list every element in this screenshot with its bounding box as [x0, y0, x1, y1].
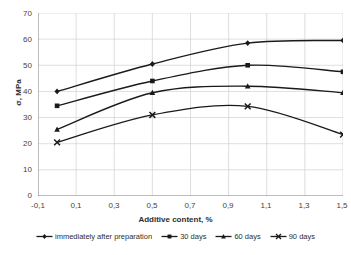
x-tick-label: 0,5 [135, 201, 169, 210]
legend-label: 60 days [234, 232, 260, 241]
x-tick-label: 1,3 [287, 201, 321, 210]
chart-legend: immediately after preparation 30 days 60… [0, 232, 351, 241]
series-4 [54, 103, 343, 145]
plot-area [38, 13, 343, 196]
square-marker-icon [55, 104, 60, 109]
x-cross-marker-icon [270, 232, 287, 241]
chart-container: 70 60 50 40 30 20 10 0 -0,1 0,1 0,3 0,5 … [0, 0, 351, 255]
diamond-marker-icon [42, 234, 46, 239]
x-tick-label: 1,1 [249, 201, 283, 210]
diamond-marker-icon [245, 40, 250, 46]
x-tick-label: 0,1 [59, 201, 93, 210]
diamond-marker-icon [150, 61, 155, 67]
legend-item-30-days[interactable]: 30 days [161, 232, 206, 241]
x-tick-label: 0,3 [97, 201, 131, 210]
legend-item-90-days[interactable]: 90 days [270, 232, 315, 241]
series-2 [55, 63, 343, 108]
legend-label: immediately after preparation [55, 232, 152, 241]
y-tick-label: 70 [4, 9, 32, 18]
y-tick-label: 20 [4, 139, 32, 148]
x-axis-title: Additive content, % [0, 215, 351, 224]
square-marker-icon [341, 70, 343, 75]
plot-svg [38, 13, 343, 196]
legend-item-immediately-after-preparation[interactable]: immediately after preparation [36, 232, 152, 241]
x-tick-label: -0,1 [21, 201, 55, 210]
x-tick-label: 1,5 [325, 201, 351, 210]
diamond-marker-icon [340, 38, 343, 44]
legend-item-60-days[interactable]: 60 days [215, 232, 260, 241]
x-tick-label: 0,9 [211, 201, 245, 210]
square-marker-icon [168, 235, 172, 239]
legend-label: 30 days [180, 232, 206, 241]
y-tick-label: 60 [4, 35, 32, 44]
y-tick-label: 0 [4, 191, 32, 200]
square-marker-icon [161, 232, 178, 241]
legend-label: 90 days [289, 232, 315, 241]
y-axis-title: σ, MPa [14, 63, 23, 123]
diamond-marker-icon [36, 232, 53, 241]
series-1 [54, 38, 343, 95]
diamond-marker-icon [54, 89, 59, 95]
square-marker-icon [245, 63, 250, 68]
triangle-marker-icon [215, 232, 232, 241]
y-tick-label: 10 [4, 165, 32, 174]
x-tick-label: 0,7 [173, 201, 207, 210]
square-marker-icon [150, 79, 155, 84]
